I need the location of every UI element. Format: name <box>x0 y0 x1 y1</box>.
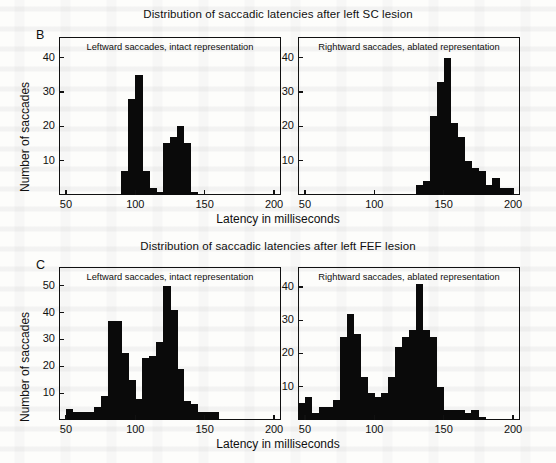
y-axis-tick <box>298 91 303 92</box>
y-axis-tick <box>59 312 64 313</box>
panel-c-y-axis-label: Number of saccades <box>18 312 32 422</box>
histogram-bars <box>59 37 281 195</box>
x-axis-tick-label: 100 <box>358 423 390 435</box>
x-axis-tick <box>374 190 375 195</box>
histogram-bars <box>298 37 520 195</box>
x-axis-tick <box>204 415 205 420</box>
x-axis-tick-label: 150 <box>428 198 460 210</box>
y-axis-tick-label: 40 <box>33 51 55 63</box>
x-axis-tick <box>304 415 305 420</box>
histogram-bar <box>191 192 199 195</box>
x-axis-tick-label: 200 <box>497 198 529 210</box>
x-axis-tick <box>65 415 66 420</box>
y-axis-tick <box>59 393 64 394</box>
y-axis-tick-label: 10 <box>33 154 55 166</box>
panel-c-x-axis-label: Latency in milliseconds <box>0 437 556 451</box>
y-axis-tick <box>298 353 303 354</box>
x-axis-tick-label: 50 <box>50 423 82 435</box>
plot-b-rightward-saccades: Rightward saccades, ablated representati… <box>298 37 520 195</box>
x-axis-tick-label: 200 <box>258 198 290 210</box>
panel-b-title: Distribution of saccadic latencies after… <box>0 8 556 20</box>
x-axis-tick-label: 100 <box>358 198 390 210</box>
x-axis-tick-label: 150 <box>189 198 221 210</box>
y-axis-tick-label: 10 <box>272 380 294 392</box>
x-axis-tick-label: 150 <box>428 423 460 435</box>
y-axis-tick-label: 40 <box>33 306 55 318</box>
x-axis-tick <box>204 190 205 195</box>
y-axis-tick <box>59 285 64 286</box>
histogram-bar <box>478 417 486 420</box>
figure-saccadic-latency-distributions: Distribution of saccadic latencies after… <box>0 0 556 463</box>
x-axis-tick-label: 50 <box>289 423 321 435</box>
y-axis-tick <box>59 339 64 340</box>
y-axis-tick <box>298 126 303 127</box>
x-axis-tick <box>512 190 513 195</box>
y-axis-tick-label: 30 <box>33 332 55 344</box>
y-axis-tick <box>59 366 64 367</box>
x-axis-tick-label: 100 <box>119 423 151 435</box>
x-axis-tick <box>135 415 136 420</box>
y-axis-tick <box>298 286 303 287</box>
panel-c-letter: C <box>36 258 45 272</box>
x-axis-tick-label: 200 <box>497 423 529 435</box>
x-axis-tick-label: 200 <box>258 423 290 435</box>
histogram-bar <box>212 412 220 420</box>
y-axis-tick-label: 20 <box>272 346 294 358</box>
y-axis-tick-label: 30 <box>272 85 294 97</box>
y-axis-tick <box>298 386 303 387</box>
y-axis-tick-label: 10 <box>33 386 55 398</box>
y-axis-tick <box>298 160 303 161</box>
y-axis-tick-label: 40 <box>272 280 294 292</box>
panel-b: Distribution of saccadic latencies after… <box>0 0 556 232</box>
plot-c-rightward-saccades: Rightward saccades, ablated representati… <box>298 267 520 420</box>
y-axis-tick-label: 50 <box>33 279 55 291</box>
y-axis-tick-label: 30 <box>33 85 55 97</box>
y-axis-tick <box>59 126 64 127</box>
x-axis-tick <box>443 190 444 195</box>
x-axis-tick <box>374 415 375 420</box>
panel-b-letter: B <box>36 28 44 42</box>
x-axis-tick <box>443 415 444 420</box>
y-axis-tick-label: 20 <box>33 359 55 371</box>
y-axis-tick-label: 20 <box>272 119 294 131</box>
y-axis-tick <box>59 160 64 161</box>
y-axis-tick <box>298 57 303 58</box>
y-axis-tick-label: 10 <box>272 154 294 166</box>
histogram-bar <box>184 143 192 195</box>
x-axis-tick-label: 50 <box>50 198 82 210</box>
y-axis-tick-label: 40 <box>272 51 294 63</box>
x-axis-tick <box>65 190 66 195</box>
panel-c-title: Distribution of saccadic latencies after… <box>0 240 556 252</box>
plot-c-leftward-saccades: Leftward saccades, intact representation… <box>59 267 281 420</box>
panel-b-x-axis-label: Latency in milliseconds <box>0 212 556 226</box>
y-axis-tick <box>59 57 64 58</box>
x-axis-tick <box>512 415 513 420</box>
plot-b-leftward-saccades: Leftward saccades, intact representation… <box>59 37 281 195</box>
x-axis-tick <box>135 190 136 195</box>
y-axis-tick-label: 30 <box>272 313 294 325</box>
x-axis-tick-label: 100 <box>119 198 151 210</box>
x-axis-tick-label: 50 <box>289 198 321 210</box>
y-axis-tick-label: 20 <box>33 119 55 131</box>
histogram-bars <box>298 267 520 420</box>
x-axis-tick <box>273 190 274 195</box>
histogram-bars <box>59 267 281 420</box>
panel-c: Distribution of saccadic latencies after… <box>0 232 556 463</box>
y-axis-tick <box>298 320 303 321</box>
panel-b-y-axis-label: Number of saccades <box>18 82 32 192</box>
x-axis-tick-label: 150 <box>189 423 221 435</box>
x-axis-tick <box>304 190 305 195</box>
x-axis-tick <box>273 415 274 420</box>
y-axis-tick <box>59 91 64 92</box>
